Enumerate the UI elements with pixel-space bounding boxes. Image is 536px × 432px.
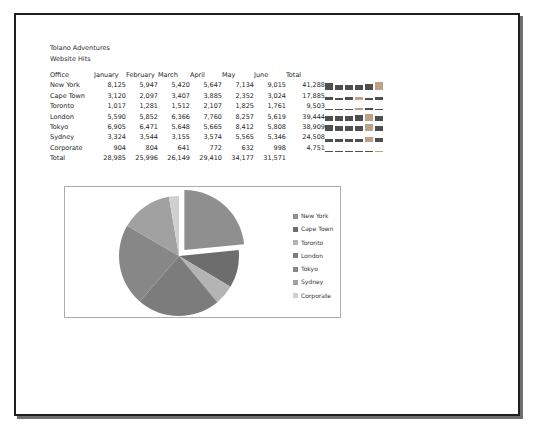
sparkline-bar <box>375 109 383 110</box>
table-row: Tokyo6,9056,4715,6485,6658,4125,80838,90… <box>50 122 403 132</box>
value-cell: 1,761 <box>254 101 286 111</box>
sparkline-high-bar <box>355 108 363 110</box>
sparkline-bar <box>345 109 353 110</box>
legend-item-cape-town: Cape Town <box>293 226 333 232</box>
office-cell: Sydney <box>50 132 94 142</box>
office-cell: Cape Town <box>50 91 94 101</box>
total-cell: 9,503 <box>286 101 325 111</box>
sparkline-bar <box>375 116 383 121</box>
website-hits-table: OfficeJanuaryFebruaryMarchAprilMayJuneTo… <box>50 70 403 164</box>
sparkline-cell <box>325 91 403 101</box>
legend-item-toronto: Toronto <box>293 240 333 246</box>
legend-marker <box>293 253 298 258</box>
value-cell: 998 <box>254 143 286 153</box>
sparkline <box>325 92 403 100</box>
sparkline-cell <box>325 153 403 163</box>
value-cell: 8,125 <box>94 80 126 90</box>
legend-item-london: London <box>293 253 333 259</box>
value-cell: 804 <box>126 143 158 153</box>
office-cell: Toronto <box>50 101 94 111</box>
sparkline-cell <box>325 143 403 153</box>
value-cell: 8,257 <box>222 112 254 122</box>
value-cell: 6,471 <box>126 122 158 132</box>
sparkline-bar <box>355 115 363 121</box>
sparkline-bar <box>325 139 333 142</box>
value-cell: 26,149 <box>158 153 190 163</box>
value-cell: 5,648 <box>158 122 190 132</box>
legend-marker <box>293 227 298 232</box>
value-cell: 6,366 <box>158 112 190 122</box>
column-header-march: March <box>158 70 190 80</box>
column-header-february: February <box>126 70 158 80</box>
legend-label: Toronto <box>301 240 323 246</box>
table-row: Toronto1,0171,2811,5122,1071,8251,7619,5… <box>50 101 403 111</box>
sparkline-high-bar <box>365 124 373 131</box>
sparkline-bar <box>345 139 353 142</box>
table-header-row: OfficeJanuaryFebruaryMarchAprilMayJuneTo… <box>50 70 403 80</box>
value-cell: 6,905 <box>94 122 126 132</box>
legend-marker <box>293 280 298 285</box>
legend-marker <box>293 240 298 245</box>
value-cell: 5,619 <box>254 112 286 122</box>
sparkline <box>325 82 403 90</box>
sparkline-bar <box>355 85 363 90</box>
value-cell: 1,281 <box>126 101 158 111</box>
value-cell: 772 <box>190 143 222 153</box>
sparkline-bar <box>335 116 343 121</box>
sparkline-bar <box>335 139 343 142</box>
sparkline-bar <box>365 84 373 90</box>
sparkline-bar <box>345 151 353 152</box>
sparkline-bar <box>365 108 373 110</box>
sparkline-bar <box>335 109 343 110</box>
legend-label: Sydney <box>301 279 323 285</box>
sparkline-high-bar <box>365 137 373 142</box>
sparkline-bar <box>355 126 363 131</box>
value-cell: 5,808 <box>254 122 286 132</box>
column-header-office: Office <box>50 70 94 80</box>
sparkline-high-bar <box>365 114 373 121</box>
sparkline-bar <box>345 126 353 131</box>
chart-legend: New YorkCape TownTorontoLondonTokyoSydne… <box>293 213 333 306</box>
sparkline-bar <box>335 85 343 90</box>
table-total-row: Total28,98525,99626,14929,41034,17731,57… <box>50 153 403 163</box>
legend-item-new-york: New York <box>293 213 333 219</box>
report-title: Tolano Adventures <box>50 43 110 54</box>
table-row: Sydney3,3243,5443,1553,5745,5655,34624,5… <box>50 132 403 142</box>
sparkline-bar <box>355 139 363 142</box>
value-cell: 3,407 <box>158 91 190 101</box>
total-cell: 39,444 <box>286 112 325 122</box>
value-cell: 9,015 <box>254 80 286 90</box>
print-preview-page: Tolano Adventures Website Hits OfficeJan… <box>14 13 520 416</box>
total-cell: 4,751 <box>286 143 325 153</box>
value-cell: 3,574 <box>190 132 222 142</box>
value-cell: 5,590 <box>94 112 126 122</box>
value-cell: 3,120 <box>94 91 126 101</box>
sparkline-bar <box>365 98 373 100</box>
sparkline-high-bar <box>375 151 383 152</box>
value-cell: 5,647 <box>190 80 222 90</box>
sparkline-high-bar <box>355 97 363 100</box>
office-cell: New York <box>50 80 94 90</box>
column-header-april: April <box>190 70 222 80</box>
sparkline-bar <box>345 116 353 121</box>
value-cell: 7,760 <box>190 112 222 122</box>
office-cell: Total <box>50 153 94 163</box>
value-cell: 29,410 <box>190 153 222 163</box>
value-cell: 5,565 <box>222 132 254 142</box>
sparkline <box>325 134 403 142</box>
total-cell: 24,508 <box>286 132 325 142</box>
sparkline-cell <box>325 80 403 90</box>
sparkline-cell <box>325 112 403 122</box>
sparkline <box>325 113 403 121</box>
legend-label: London <box>301 253 323 259</box>
sparkline <box>325 123 403 131</box>
value-cell: 3,885 <box>190 91 222 101</box>
value-cell: 641 <box>158 143 190 153</box>
sparkline-bar <box>335 98 343 100</box>
sparkline-cell <box>325 122 403 132</box>
value-cell: 3,155 <box>158 132 190 142</box>
sparkline <box>325 144 403 152</box>
report-titles: Tolano Adventures Website Hits <box>50 43 110 65</box>
table-row: Cape Town3,1202,0973,4073,8852,3523,0241… <box>50 91 403 101</box>
sparkline-bar <box>325 97 333 100</box>
